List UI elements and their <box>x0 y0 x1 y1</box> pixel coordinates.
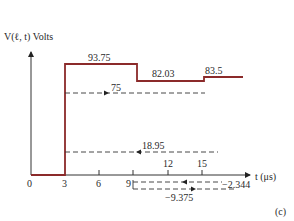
tick-label-9: 9 <box>126 178 131 189</box>
panel-label: (c) <box>275 206 286 218</box>
arrow-right-icon <box>104 91 109 96</box>
value-93-75: 93.75 <box>88 52 111 63</box>
arrow-left-icon <box>182 180 187 185</box>
y-axis-label: V(ℓ, t) Volts <box>4 31 53 43</box>
tick-label-6: 6 <box>96 178 101 189</box>
value-18-95: 18.95 <box>142 140 165 151</box>
voltage-diagram: V(ℓ, t) Volts 93.75 82.03 83.5 75 18.95 … <box>0 0 294 221</box>
value-m2-344: −2.344 <box>222 179 250 190</box>
tick-label-3: 3 <box>62 178 67 189</box>
value-83-5: 83.5 <box>205 65 223 76</box>
value-75: 75 <box>111 82 121 93</box>
arrow-right-icon <box>191 187 196 192</box>
voltage-waveform <box>31 64 243 175</box>
tick-label-15: 15 <box>197 158 207 169</box>
x-axis-label: t (μs) <box>255 171 276 183</box>
value-82-03: 82.03 <box>152 68 175 79</box>
value-m9-375: −9.375 <box>165 192 193 203</box>
tick-label-12: 12 <box>163 158 173 169</box>
arrow-left-icon <box>136 150 141 155</box>
tick-label-0: 0 <box>27 178 32 189</box>
